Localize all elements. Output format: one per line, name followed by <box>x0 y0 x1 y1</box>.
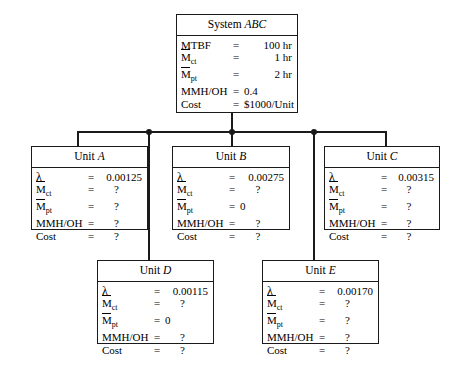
value-mmh-oh: ? <box>164 331 213 343</box>
node-system-abc[interactable]: System ABC MTBF = 100 hr Mct = 1 hr Mpt … <box>176 14 298 113</box>
label-mmh-oh: MMH/OH <box>267 331 319 343</box>
label-mct: Mct <box>102 297 154 314</box>
row-cost: Cost = ? <box>267 344 378 356</box>
label-cost: Cost <box>181 98 233 110</box>
value-mmh-oh: ? <box>329 331 378 343</box>
row-mpt: Mpt = 2 hr <box>181 68 297 85</box>
eq-lambda: = <box>154 285 164 297</box>
node-body-unit-e: λ = 0.00170 Mct = ? Mpt = ? MMH/OH = ? C… <box>263 281 378 359</box>
value-mtbf: 100 hr <box>243 39 297 51</box>
label-cost: Cost <box>329 230 381 242</box>
eq-mct: = <box>319 297 329 309</box>
node-unit-d[interactable]: Unit D λ = 0.00115 Mct = ? Mpt = 0 MMH/O… <box>97 260 214 344</box>
label-mct: Mct <box>267 297 319 314</box>
value-lambda: 0.00125 <box>98 171 147 183</box>
eq-mpt: = <box>381 200 391 212</box>
eq-mmh-oh: = <box>229 217 239 229</box>
node-title-unit-b: Unit B <box>173 147 289 167</box>
eq-mpt: = <box>229 200 239 212</box>
eq-mmh-oh: = <box>154 331 164 343</box>
row-cost: Cost = ? <box>36 230 147 242</box>
eq-lambda: = <box>88 171 98 183</box>
label-mmh-oh: MMH/OH <box>181 85 233 97</box>
value-mpt: 2 hr <box>243 68 297 80</box>
eq-lambda: = <box>319 285 329 297</box>
label-cost: Cost <box>102 344 154 356</box>
value-lambda: 0.00315 <box>391 171 439 183</box>
eq-mct: = <box>154 297 164 309</box>
junction-dot-system <box>229 129 235 135</box>
junction-dot-unit-e <box>311 129 317 135</box>
eq-mmh-oh: = <box>319 331 329 343</box>
row-cost: Cost = ? <box>329 230 439 242</box>
label-mpt: Mpt <box>267 314 319 331</box>
value-mmh-oh: ? <box>391 217 439 229</box>
eq-mmh-oh: = <box>88 217 98 229</box>
value-lambda: 0.00275 <box>239 171 289 183</box>
row-mtbf: MTBF = 100 hr <box>181 39 297 51</box>
eq-mct: = <box>88 183 98 195</box>
label-mct: Mct <box>329 183 381 200</box>
value-mpt: ? <box>98 200 147 212</box>
row-mct: Mct = ? <box>36 183 147 200</box>
node-body-unit-c: λ = 0.00315 Mct = ? Mpt = ? MMH/OH = ? C… <box>325 167 439 245</box>
node-body-unit-a: λ = 0.00125 Mct = ? Mpt = ? MMH/OH = ? C… <box>32 167 147 245</box>
eq-mpt: = <box>319 314 329 326</box>
connector-bus-to-unit-c <box>385 131 387 146</box>
node-unit-b[interactable]: Unit B λ = 0.00275 Mct = ? Mpt = 0 MMH/O… <box>172 146 290 230</box>
value-cost: ? <box>391 230 439 242</box>
label-mct: Mct <box>177 183 229 200</box>
node-body-unit-b: λ = 0.00275 Mct = ? Mpt = 0 MMH/OH = ? C… <box>173 167 289 245</box>
value-cost: ? <box>164 344 213 356</box>
eq-lambda: = <box>229 171 239 183</box>
connector-bus-to-unit-d <box>148 131 150 260</box>
row-mpt: Mpt = 0 <box>102 314 213 331</box>
connector-bus-to-unit-a <box>77 131 79 146</box>
value-mct: ? <box>391 183 439 195</box>
row-mmh-oh: MMH/OH = 0.4 <box>181 85 297 97</box>
value-mpt: 0 <box>164 314 213 326</box>
eq-mct: = <box>233 51 243 63</box>
row-lambda: λ = 0.00170 <box>267 285 378 297</box>
value-mct: ? <box>239 183 289 195</box>
label-mct: Mct <box>181 51 233 68</box>
node-unit-c[interactable]: Unit C λ = 0.00315 Mct = ? Mpt = ? MMH/O… <box>324 146 440 230</box>
node-body-system-abc: MTBF = 100 hr Mct = 1 hr Mpt = 2 hr MMH/… <box>177 35 297 113</box>
node-title-unit-c: Unit C <box>325 147 439 167</box>
eq-mct: = <box>229 183 239 195</box>
label-mmh-oh: MMH/OH <box>36 217 88 229</box>
row-lambda: λ = 0.00315 <box>329 171 439 183</box>
node-unit-e[interactable]: Unit E λ = 0.00170 Mct = ? Mpt = ? MMH/O… <box>262 260 379 344</box>
eq-mtbf: = <box>233 39 243 51</box>
eq-cost: = <box>229 230 239 242</box>
row-mmh-oh: MMH/OH = ? <box>329 217 439 229</box>
row-mct: Mct = 1 hr <box>181 51 297 68</box>
row-mpt: Mpt = 0 <box>177 200 289 217</box>
value-mct: ? <box>329 297 378 309</box>
eq-cost: = <box>233 98 243 110</box>
node-body-unit-d: λ = 0.00115 Mct = ? Mpt = 0 MMH/OH = ? C… <box>98 281 213 359</box>
row-mmh-oh: MMH/OH = ? <box>102 331 213 343</box>
eq-cost: = <box>154 344 164 356</box>
label-mmh-oh: MMH/OH <box>177 217 229 229</box>
node-title-unit-d: Unit D <box>98 261 213 281</box>
row-mct: Mct = ? <box>267 297 378 314</box>
label-mmh-oh: MMH/OH <box>102 331 154 343</box>
row-mmh-oh: MMH/OH = ? <box>36 217 147 229</box>
label-mmh-oh: MMH/OH <box>329 217 381 229</box>
row-lambda: λ = 0.00115 <box>102 285 213 297</box>
row-mmh-oh: MMH/OH = ? <box>267 331 378 343</box>
value-cost: $1000/Unit <box>243 98 299 110</box>
row-mct: Mct = ? <box>102 297 213 314</box>
value-mmh-oh: ? <box>239 217 289 229</box>
diagram-canvas: System ABC MTBF = 100 hr Mct = 1 hr Mpt … <box>0 0 463 370</box>
value-mpt: 0 <box>239 200 289 212</box>
value-mmh-oh: 0.4 <box>243 85 297 97</box>
node-unit-a[interactable]: Unit A λ = 0.00125 Mct = ? Mpt = ? MMH/O… <box>31 146 148 230</box>
value-mct: 1 hr <box>243 51 297 63</box>
eq-mpt: = <box>154 314 164 326</box>
eq-mpt: = <box>233 68 243 80</box>
row-mpt: Mpt = ? <box>329 200 439 217</box>
row-cost: Cost = $1000/Unit <box>181 98 297 110</box>
label-cost: Cost <box>36 230 88 242</box>
